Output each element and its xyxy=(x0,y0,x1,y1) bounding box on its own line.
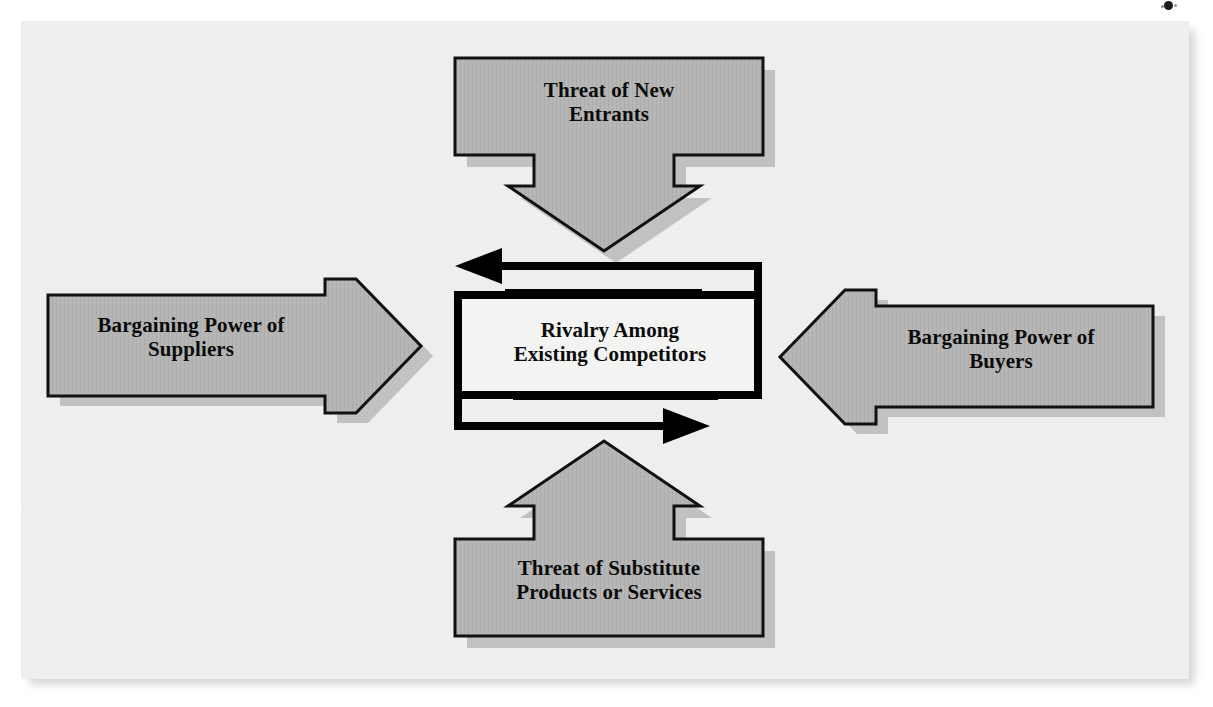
screenshot-canvas: Threat of New Entrants Bargaining Power … xyxy=(0,0,1213,707)
bargaining-power-of-suppliers-shape[interactable] xyxy=(48,279,421,413)
threat-of-substitute-shape[interactable] xyxy=(455,441,763,636)
node-threat-of-substitute-products-or-services[interactable] xyxy=(455,441,775,648)
node-bargaining-power-of-buyers[interactable] xyxy=(780,290,1165,434)
node-threat-of-new-entrants[interactable] xyxy=(455,58,775,263)
node-bargaining-power-of-suppliers[interactable] xyxy=(48,279,433,423)
rivalry-center-box[interactable] xyxy=(458,295,758,395)
rivalry-inner-bottom-tail xyxy=(513,392,718,400)
node-rivalry-among-existing-competitors[interactable] xyxy=(455,248,758,444)
scan-speck-artifact xyxy=(1164,1,1173,10)
rivalry-inner-top-tail xyxy=(505,289,702,297)
threat-of-new-entrants-shape[interactable] xyxy=(455,58,763,251)
porters-five-forces-diagram xyxy=(0,0,1213,707)
rivalry-flow-bottom-arrow xyxy=(458,395,710,444)
bargaining-power-of-buyers-shape[interactable] xyxy=(780,290,1153,424)
